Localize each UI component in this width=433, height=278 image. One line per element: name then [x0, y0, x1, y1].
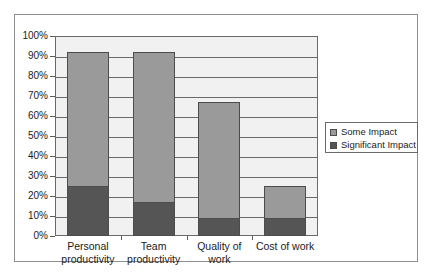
- bar-segment-significant-impact[interactable]: [67, 186, 109, 236]
- bar-group[interactable]: [55, 36, 121, 236]
- bar-segment-significant-impact[interactable]: [198, 218, 240, 236]
- bar-stack[interactable]: [198, 102, 240, 236]
- bar-segment-significant-impact[interactable]: [133, 202, 175, 236]
- bar-segment-some-impact[interactable]: [133, 52, 175, 202]
- bar-segment-some-impact[interactable]: [264, 186, 306, 218]
- bar-segment-some-impact[interactable]: [198, 102, 240, 218]
- bar-segment-significant-impact[interactable]: [264, 218, 306, 236]
- x-axis-tick-label: Team productivity: [121, 240, 187, 266]
- y-axis-tick-label: 90%: [28, 51, 48, 61]
- y-axis-tick-mark: [50, 236, 55, 237]
- legend-item-label: Significant Impact: [341, 140, 416, 150]
- y-axis-tick-label: 40%: [28, 151, 48, 161]
- bar-stack[interactable]: [264, 186, 306, 236]
- bar-segment-some-impact[interactable]: [67, 52, 109, 186]
- y-axis-tick-label: 0%: [34, 231, 48, 241]
- legend-swatch-icon: [330, 129, 337, 136]
- y-axis-tick-label: 60%: [28, 111, 48, 121]
- bar-group[interactable]: [252, 36, 318, 236]
- y-axis-tick-label: 30%: [28, 171, 48, 181]
- bar-group[interactable]: [121, 36, 187, 236]
- y-axis-tick-label: 20%: [28, 191, 48, 201]
- y-axis-tick-label: 80%: [28, 71, 48, 81]
- legend-item-label: Some Impact: [341, 127, 397, 137]
- bar-stack[interactable]: [67, 52, 109, 236]
- chart-figure: 100%90%80%70%60%50%40%30%20%10%0% Person…: [0, 0, 433, 278]
- x-axis-tick-label: Personal productivity: [55, 240, 121, 266]
- x-axis-tick-label: Cost of work: [252, 240, 318, 253]
- bar-stack[interactable]: [133, 52, 175, 236]
- legend-swatch-icon: [330, 142, 337, 149]
- y-axis-tick-label: 50%: [28, 131, 48, 141]
- bars-layer: [55, 36, 318, 236]
- legend-item[interactable]: Significant Impact: [330, 139, 417, 151]
- y-axis-tick-label: 10%: [28, 211, 48, 221]
- y-axis: 100%90%80%70%60%50%40%30%20%10%0%: [14, 36, 55, 236]
- x-axis: Personal productivityTeam productivityQu…: [55, 240, 318, 274]
- bar-group[interactable]: [187, 36, 253, 236]
- legend-item[interactable]: Some Impact: [330, 126, 417, 138]
- x-axis-tick-label: Quality of work: [187, 240, 253, 266]
- legend: Some ImpactSignificant Impact: [325, 122, 418, 153]
- y-axis-tick-label: 100%: [22, 31, 48, 41]
- y-axis-tick-label: 70%: [28, 91, 48, 101]
